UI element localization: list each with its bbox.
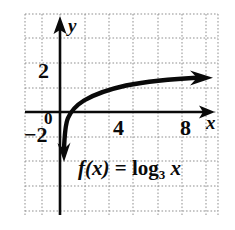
x-tick-label-8: 8 (180, 117, 191, 139)
y-tick-label-2: 2 (38, 60, 49, 82)
equation-operand: x (171, 156, 182, 180)
function-equation: f(x) = log3 x (78, 158, 181, 181)
y-axis-label: y (68, 16, 76, 35)
equation-lhs: f(x) (78, 156, 109, 180)
equation-operator: log (132, 156, 159, 180)
equation-equals: = (115, 156, 127, 180)
log-function-graph-figure: y x 2 0 −2 4 8 f(x) = log3 x (0, 0, 235, 230)
x-axis-label: x (206, 113, 216, 132)
y-tick-label-negative-2: −2 (24, 124, 48, 146)
x-tick-label-4: 4 (113, 117, 124, 139)
